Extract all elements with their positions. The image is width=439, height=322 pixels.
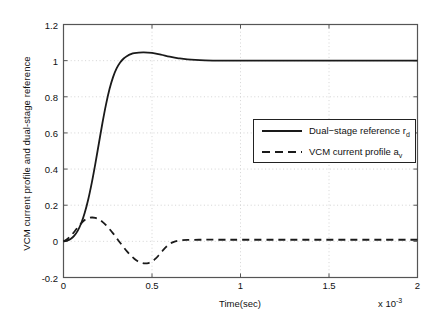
exponent-power: -3 <box>396 297 402 304</box>
legend-label-dual-stage-reference: Dual−stage reference rd <box>309 125 410 138</box>
legend-solid-line-sample <box>261 125 303 137</box>
legend-label-main-0: Dual−stage reference r <box>309 125 406 136</box>
legend-label-sub-0: d <box>406 130 410 137</box>
exponent-base: x 10 <box>378 298 396 309</box>
legend-label-vcm-current-profile: VCM current profile av <box>309 146 402 159</box>
legend-label-sub-1: v <box>399 151 403 158</box>
legend: Dual−stage reference rd VCM current prof… <box>253 119 416 163</box>
y-axis-label: VCM current profile and dual-stage refer… <box>21 24 32 284</box>
legend-dashed-line-sample <box>261 146 303 158</box>
legend-entry-vcm-current-profile: VCM current profile av <box>254 141 415 163</box>
figure-canvas: VCM current profile and dual-stage refer… <box>0 0 439 322</box>
legend-label-main-1: VCM current profile a <box>309 146 399 157</box>
data-series-line-1 <box>64 217 418 263</box>
x-axis-exponent-multiplier: x 10-3 <box>378 297 402 309</box>
legend-entry-dual-stage-reference: Dual−stage reference rd <box>254 120 415 142</box>
x-axis-label: Time(sec) <box>63 298 417 309</box>
